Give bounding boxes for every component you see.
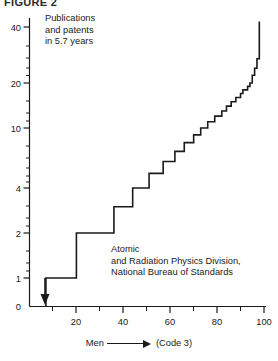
x-axis-tick-labels: 20 40 60 80 100	[71, 317, 272, 327]
arrow-right-icon	[107, 339, 153, 348]
y-axis-tick-labels: 40 20 10 4 2 1 0	[11, 23, 21, 312]
y-tick-2: 2	[16, 229, 21, 239]
x-tick-20: 20	[71, 317, 81, 327]
x-axis-caption-prefix: Men	[86, 338, 104, 348]
x-tick-40: 40	[118, 317, 128, 327]
y-tick-40: 40	[11, 23, 21, 33]
y-tick-10: 10	[11, 124, 21, 134]
x-tick-80: 80	[212, 317, 222, 327]
x-axis-minor-ticks	[53, 307, 241, 312]
annotation-top-left: Publications and patents in 5.7 years	[45, 13, 95, 48]
x-axis-caption-suffix: (Code 3)	[156, 338, 192, 348]
x-tick-60: 60	[165, 317, 175, 327]
x-axis-caption: Men(Code 3)	[0, 338, 278, 348]
x-axis-ticks	[76, 307, 264, 314]
down-arrow-marker	[41, 278, 50, 305]
y-axis-ticks	[24, 27, 30, 278]
y-tick-20: 20	[11, 79, 21, 89]
y-tick-0: 0	[16, 302, 21, 312]
x-tick-100: 100	[256, 317, 272, 327]
chart-plot: 40 20 10 4 2 1 0 20 40 60 80 100	[0, 0, 278, 361]
annotation-division: Atomic and Radiation Physics Division, N…	[111, 244, 241, 279]
y-tick-4: 4	[16, 184, 21, 194]
y-tick-1: 1	[16, 274, 21, 284]
